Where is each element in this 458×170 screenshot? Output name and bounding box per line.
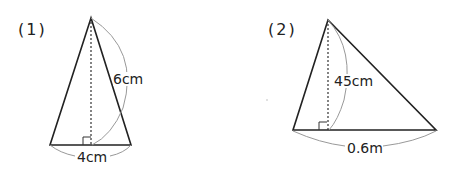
right-angle-marker-1: [83, 137, 91, 145]
figure-2-height-label: 45cm: [334, 74, 373, 88]
right-angle-marker-2: [319, 122, 327, 130]
figure-2-number: (2): [268, 22, 297, 38]
figure-1: [50, 18, 131, 156]
stray-dot: [266, 99, 268, 101]
diagram-svg: [0, 0, 458, 170]
figure-1-number: (1): [18, 22, 47, 38]
diagram-canvas: (1) 6cm 4cm (2) 45cm 0.6m: [0, 0, 458, 170]
base-arc-1: [50, 145, 75, 156]
figure-2-base-label: 0.6m: [347, 141, 383, 155]
base-arc-1b: [110, 145, 131, 156]
figure-1-side-label: 6cm: [113, 72, 143, 86]
base-arc-2b: [383, 131, 436, 146]
figure-1-base-label: 4cm: [77, 150, 107, 164]
base-arc-2: [293, 131, 345, 146]
